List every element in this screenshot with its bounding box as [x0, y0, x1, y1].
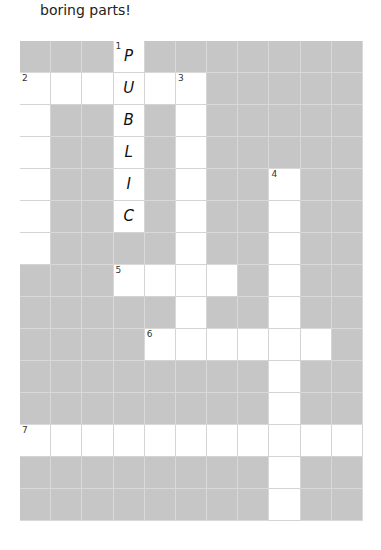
- blocked-cell: [176, 41, 207, 73]
- crossword-cell[interactable]: [82, 73, 113, 105]
- crossword-cell[interactable]: [176, 425, 207, 457]
- crossword-cell[interactable]: [269, 457, 300, 489]
- blocked-cell: [238, 105, 269, 137]
- blocked-cell: [332, 233, 363, 265]
- blocked-cell: [51, 457, 82, 489]
- crossword-cell[interactable]: 6: [145, 329, 176, 361]
- blocked-cell: [51, 169, 82, 201]
- blocked-cell: [51, 233, 82, 265]
- crossword-cell[interactable]: 2: [20, 73, 51, 105]
- blocked-cell: [207, 361, 238, 393]
- crossword-cell[interactable]: [269, 361, 300, 393]
- blocked-cell: [238, 489, 269, 521]
- blocked-cell: [207, 201, 238, 233]
- crossword-cell[interactable]: [176, 297, 207, 329]
- crossword-cell[interactable]: [269, 265, 300, 297]
- crossword-cell[interactable]: [238, 329, 269, 361]
- blocked-cell: [51, 105, 82, 137]
- crossword-cell[interactable]: [51, 73, 82, 105]
- clue-number: 7: [22, 425, 28, 435]
- blocked-cell: [51, 329, 82, 361]
- blocked-cell: [114, 457, 145, 489]
- blocked-cell: [145, 201, 176, 233]
- crossword-cell[interactable]: [176, 137, 207, 169]
- crossword-cell[interactable]: [114, 425, 145, 457]
- blocked-cell: [145, 169, 176, 201]
- blocked-cell: [176, 489, 207, 521]
- crossword-cell[interactable]: 7: [20, 425, 51, 457]
- blocked-cell: [238, 169, 269, 201]
- crossword-cell[interactable]: B: [114, 105, 145, 137]
- blocked-cell: [207, 169, 238, 201]
- blocked-cell: [82, 393, 113, 425]
- blocked-cell: [20, 361, 51, 393]
- blocked-cell: [301, 489, 332, 521]
- crossword-cell[interactable]: [82, 425, 113, 457]
- crossword-cell[interactable]: [269, 425, 300, 457]
- crossword-cell[interactable]: [145, 265, 176, 297]
- crossword-cell[interactable]: [207, 425, 238, 457]
- blocked-cell: [301, 201, 332, 233]
- crossword-cell[interactable]: [176, 329, 207, 361]
- blocked-cell: [145, 137, 176, 169]
- blocked-cell: [207, 137, 238, 169]
- blocked-cell: [301, 73, 332, 105]
- blocked-cell: [82, 457, 113, 489]
- blocked-cell: [51, 41, 82, 73]
- crossword-cell[interactable]: [176, 105, 207, 137]
- crossword-cell[interactable]: [301, 425, 332, 457]
- blocked-cell: [332, 329, 363, 361]
- crossword-cell[interactable]: 1P: [114, 41, 145, 73]
- blocked-cell: [51, 137, 82, 169]
- crossword-cell[interactable]: [176, 265, 207, 297]
- crossword-cell[interactable]: [145, 425, 176, 457]
- blocked-cell: [114, 393, 145, 425]
- crossword-cell[interactable]: [238, 425, 269, 457]
- crossword-cell[interactable]: [20, 105, 51, 137]
- crossword-cell[interactable]: I: [114, 169, 145, 201]
- crossword-cell[interactable]: [269, 233, 300, 265]
- crossword-cell[interactable]: [269, 329, 300, 361]
- blocked-cell: [20, 265, 51, 297]
- blocked-cell: [238, 265, 269, 297]
- crossword-cell[interactable]: [176, 169, 207, 201]
- blocked-cell: [207, 489, 238, 521]
- crossword-cell[interactable]: [20, 201, 51, 233]
- crossword-cell[interactable]: [269, 393, 300, 425]
- blocked-cell: [82, 489, 113, 521]
- crossword-cell[interactable]: [176, 233, 207, 265]
- crossword-cell[interactable]: [301, 329, 332, 361]
- blocked-cell: [332, 201, 363, 233]
- blocked-cell: [332, 361, 363, 393]
- blocked-cell: [301, 105, 332, 137]
- crossword-cell[interactable]: [207, 329, 238, 361]
- crossword-cell[interactable]: 3: [176, 73, 207, 105]
- crossword-cell[interactable]: [269, 297, 300, 329]
- blocked-cell: [114, 489, 145, 521]
- blocked-cell: [238, 297, 269, 329]
- crossword-cell[interactable]: [269, 201, 300, 233]
- crossword-cell[interactable]: 5: [114, 265, 145, 297]
- crossword-cell[interactable]: 4: [269, 169, 300, 201]
- crossword-cell[interactable]: [20, 137, 51, 169]
- blocked-cell: [207, 233, 238, 265]
- crossword-cell[interactable]: L: [114, 137, 145, 169]
- crossword-cell[interactable]: [20, 169, 51, 201]
- crossword-cell[interactable]: [20, 233, 51, 265]
- crossword-cell[interactable]: C: [114, 201, 145, 233]
- crossword-cell[interactable]: [176, 201, 207, 233]
- blocked-cell: [332, 169, 363, 201]
- blocked-cell: [238, 393, 269, 425]
- crossword-cell[interactable]: U: [114, 73, 145, 105]
- blocked-cell: [51, 201, 82, 233]
- blocked-cell: [301, 41, 332, 73]
- crossword-cell[interactable]: [51, 425, 82, 457]
- crossword-cell[interactable]: [269, 489, 300, 521]
- crossword-cell[interactable]: [145, 73, 176, 105]
- blocked-cell: [176, 393, 207, 425]
- crossword-cell[interactable]: [207, 265, 238, 297]
- crossword-cell[interactable]: [332, 425, 363, 457]
- blocked-cell: [51, 393, 82, 425]
- blocked-cell: [238, 361, 269, 393]
- blocked-cell: [332, 137, 363, 169]
